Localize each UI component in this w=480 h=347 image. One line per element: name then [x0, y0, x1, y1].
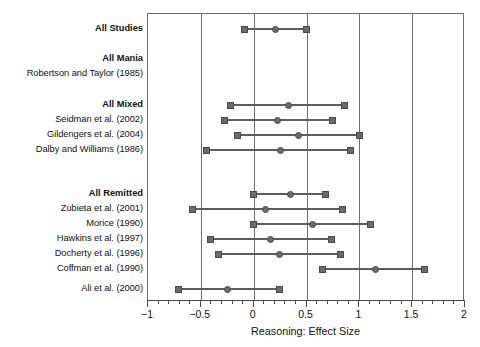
ci-upper-marker [276, 286, 283, 293]
ci-lower-marker [250, 221, 257, 228]
axis-tick-major [464, 300, 465, 307]
ci-lower-marker [241, 26, 248, 33]
ci-lower-marker [250, 191, 257, 198]
axis-tick-major [253, 300, 254, 307]
axis-tick-minor [390, 300, 391, 304]
ci-upper-marker [337, 251, 344, 258]
ci-lower-marker [207, 236, 214, 243]
effect-size-marker [295, 132, 302, 139]
axis-tick-minor [221, 300, 222, 304]
group-label: All Studies [0, 23, 143, 33]
effect-size-marker [272, 26, 279, 33]
ci-lower-marker [203, 147, 210, 154]
gridline [307, 14, 308, 300]
axis-tick-label: −1 [127, 308, 167, 320]
ci-upper-marker [303, 26, 310, 33]
ci-upper-marker [421, 266, 428, 273]
group-label: All Remitted [0, 188, 143, 198]
effect-size-marker [309, 221, 316, 228]
axis-tick-minor [401, 300, 402, 304]
study-label: Robertson and Taylor (1985) [0, 68, 143, 78]
group-label: All Mania [0, 53, 143, 63]
axis-tick-minor [432, 300, 433, 304]
axis-tick-major [200, 300, 201, 307]
gridline [254, 14, 255, 300]
axis-tick-minor [337, 300, 338, 304]
study-label: Coffman et al. (1990) [0, 263, 143, 273]
axis-tick-major [411, 300, 412, 307]
ci-lower-marker [319, 266, 326, 273]
study-label: Gildengers et al. (2004) [0, 129, 143, 139]
axis-tick-minor [284, 300, 285, 304]
forest-plot-figure: All StudiesAll ManiaRobertson and Taylor… [0, 0, 480, 347]
axis-tick-label: −0.5 [180, 308, 220, 320]
effect-size-marker [262, 206, 269, 213]
axis-tick-minor [422, 300, 423, 304]
study-label: Seidman et al. (2002) [0, 114, 143, 124]
gridline [412, 14, 413, 300]
effect-size-marker [372, 266, 379, 273]
study-label: Zubieta et al. (2001) [0, 203, 143, 213]
effect-size-marker [277, 147, 284, 154]
axis-tick-minor [274, 300, 275, 304]
ci-lower-marker [175, 286, 182, 293]
study-label-column: All StudiesAll ManiaRobertson and Taylor… [0, 0, 143, 347]
study-label: Dalby and Williams (1986) [0, 144, 143, 154]
effect-size-marker [276, 251, 283, 258]
effect-size-marker [287, 191, 294, 198]
ci-upper-marker [328, 236, 335, 243]
effect-size-marker [224, 286, 231, 293]
axis-tick-minor [369, 300, 370, 304]
ci-upper-marker [339, 206, 346, 213]
axis-tick-minor [453, 300, 454, 304]
axis-tick-minor [210, 300, 211, 304]
effect-size-marker [285, 102, 292, 109]
ci-upper-marker [347, 147, 354, 154]
group-label: All Mixed [0, 99, 143, 109]
ci-upper-marker [322, 191, 329, 198]
ci-lower-marker [189, 206, 196, 213]
ci-lower-marker [221, 117, 228, 124]
axis-tick-minor [443, 300, 444, 304]
ci-upper-marker [329, 117, 336, 124]
axis-tick-major [306, 300, 307, 307]
axis-tick-label: 0.5 [286, 308, 326, 320]
axis-tick-minor [348, 300, 349, 304]
axis-tick-minor [179, 300, 180, 304]
effect-size-marker [274, 117, 281, 124]
plot-area [147, 13, 464, 301]
axis-tick-minor [158, 300, 159, 304]
ci-lower-marker [215, 251, 222, 258]
axis-tick-major [358, 300, 359, 307]
axis-tick-minor [263, 300, 264, 304]
ci-upper-marker [356, 132, 363, 139]
gridline [201, 14, 202, 300]
axis-tick-label: 0 [233, 308, 273, 320]
axis-tick-minor [379, 300, 380, 304]
study-label: Ali et al. (2000) [0, 283, 143, 293]
axis-tick-minor [232, 300, 233, 304]
axis-tick-minor [327, 300, 328, 304]
axis-tick-minor [316, 300, 317, 304]
axis-tick-label: 1 [338, 308, 378, 320]
axis-tick-minor [242, 300, 243, 304]
x-axis: Reasoning: Effect Size −1−0.500.511.52 [147, 300, 464, 347]
study-label: Docherty et al. (1996) [0, 248, 143, 258]
axis-tick-label: 2 [444, 308, 480, 320]
axis-tick-label: 1.5 [391, 308, 431, 320]
axis-tick-minor [189, 300, 190, 304]
ci-lower-marker [234, 132, 241, 139]
axis-tick-minor [295, 300, 296, 304]
effect-size-marker [267, 236, 274, 243]
axis-tick-minor [168, 300, 169, 304]
ci-lower-marker [227, 102, 234, 109]
axis-tick-major [147, 300, 148, 307]
study-label: Hawkins et al. (1997) [0, 233, 143, 243]
ci-upper-marker [367, 221, 374, 228]
study-label: Morice (1990) [0, 218, 143, 228]
ci-upper-marker [341, 102, 348, 109]
x-axis-title: Reasoning: Effect Size [147, 325, 464, 337]
gridline [359, 14, 360, 300]
